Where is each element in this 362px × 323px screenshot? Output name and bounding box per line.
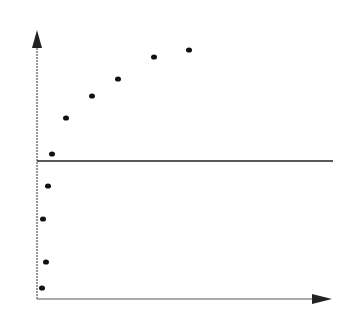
- data-points: [39, 47, 192, 290]
- data-point: [151, 54, 157, 59]
- data-point: [49, 151, 55, 156]
- data-point: [43, 259, 49, 264]
- x-axis-arrow-icon: [312, 294, 332, 304]
- data-point: [115, 76, 121, 81]
- y-axis-arrow-icon: [32, 30, 42, 48]
- data-point: [186, 47, 192, 52]
- data-point: [39, 285, 45, 290]
- data-point: [45, 183, 51, 188]
- scatter-diagram: [0, 0, 362, 323]
- data-point: [63, 115, 69, 120]
- axes: [32, 30, 332, 304]
- data-point: [40, 216, 46, 221]
- data-point: [89, 93, 95, 98]
